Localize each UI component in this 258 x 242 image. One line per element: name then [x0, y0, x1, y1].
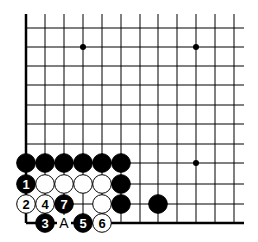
move-number: 2 [22, 197, 29, 212]
stones-layer: 1247356 [17, 154, 168, 233]
move-number: 1 [22, 177, 29, 192]
move-number: 6 [98, 216, 105, 231]
white-stone [93, 195, 112, 214]
black-stone [112, 154, 131, 173]
point-marker: A [59, 215, 69, 231]
black-stone [112, 175, 131, 194]
white-stone: 2 [17, 195, 36, 214]
white-stone: 6 [93, 214, 112, 233]
black-stone: 7 [55, 195, 74, 214]
white-stone [36, 175, 55, 194]
star-point [193, 160, 199, 166]
black-stone [149, 195, 168, 214]
white-stone [55, 175, 74, 194]
black-stone: 5 [74, 214, 93, 233]
star-point [193, 44, 199, 50]
white-stone [93, 175, 112, 194]
black-stone [93, 154, 112, 173]
black-stone [17, 154, 36, 173]
black-stone [74, 154, 93, 173]
black-stone: 1 [17, 175, 36, 194]
move-number: 3 [41, 216, 48, 231]
black-stone [112, 195, 131, 214]
black-stone: 3 [36, 214, 55, 233]
markers-layer: A [57, 215, 71, 231]
white-stone: 4 [36, 195, 55, 214]
move-number: 4 [41, 197, 49, 212]
black-stone [55, 154, 74, 173]
go-board: 1247356 A [0, 0, 258, 242]
black-stone [36, 154, 55, 173]
star-point [80, 44, 86, 50]
white-stone [74, 175, 93, 194]
move-number: 5 [79, 216, 86, 231]
move-number: 7 [60, 197, 67, 212]
